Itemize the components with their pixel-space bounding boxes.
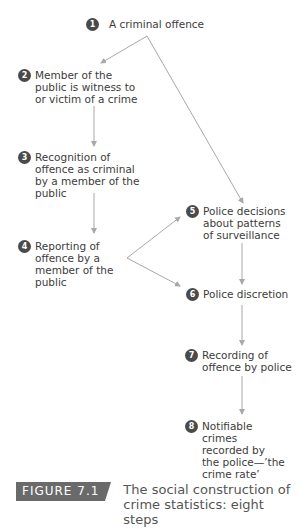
step-label: Notifiable crimes recorded by the police… [202,420,285,480]
step-number-badge: 1 [86,18,99,31]
step-label: Member of the public is witness to or vi… [35,69,138,105]
step-number-badge: 6 [186,288,199,301]
step-number-badge: 4 [18,240,31,253]
step-7: 7 Recording of offence by police [185,349,297,373]
step-label: A criminal offence [109,18,204,30]
step-number-badge: 2 [18,69,31,82]
step-label: Reporting of offence by a member of the … [35,240,130,288]
step-number-badge: 5 [186,205,199,218]
step-number-badge: 7 [185,349,198,362]
step-label: Recording of offence by police [202,349,297,373]
step-4: 4 Reporting of offence by a member of th… [18,240,130,288]
figure-caption: FIGURE 7.1 The social construction of cr… [16,482,293,527]
step-6: 6 Police discretion [186,288,296,301]
step-8: 8 Notifiable crimes recorded by the poli… [185,420,285,480]
figure-number-badge: FIGURE 7.1 [16,482,105,501]
step-3: 3 Recognition of offence as criminal by … [18,151,143,199]
step-number-badge: 8 [185,420,198,433]
arrow-1-5 [147,36,243,203]
step-5: 5 Police decisions about patterns of sur… [186,205,286,241]
step-label: Police decisions about patterns of surve… [203,205,286,241]
step-2: 2 Member of the public is witness to or … [18,69,138,105]
step-label: Police discretion [203,288,288,300]
step-number-badge: 3 [18,151,31,164]
step-label: Recognition of offence as criminal by a … [35,151,143,199]
arrow-4-5 [127,217,180,258]
arrow-4-6 [127,258,180,286]
arrow-1-2 [101,36,147,63]
step-1: 1 A criminal offence [86,18,204,31]
figure-title: The social construction of crime statist… [123,482,293,527]
